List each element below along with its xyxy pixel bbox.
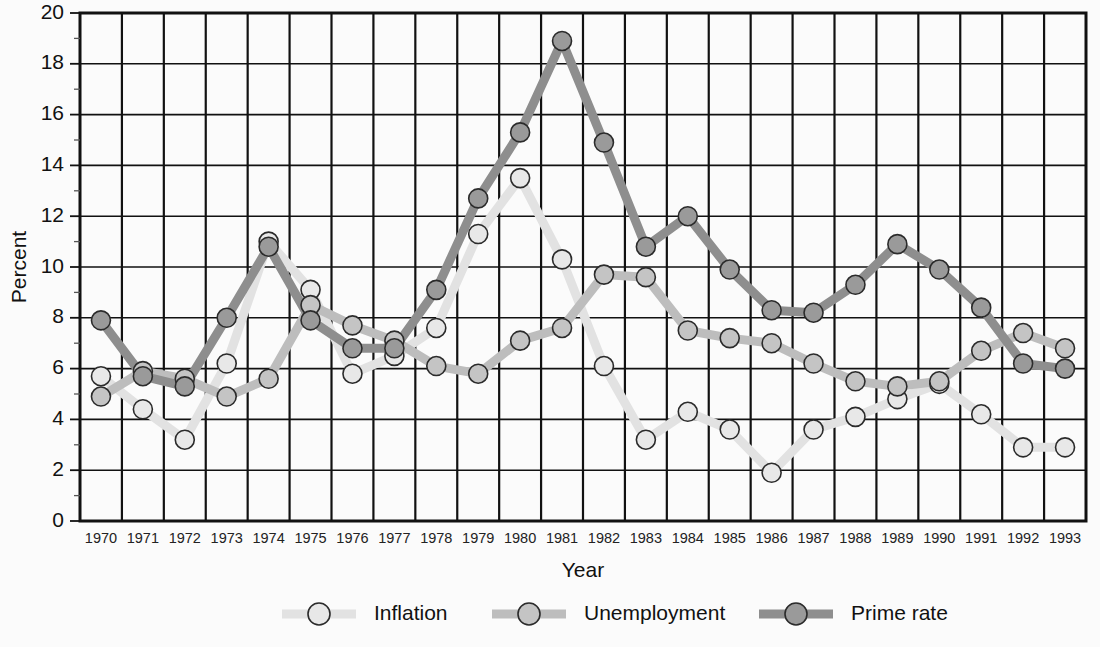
data-point-inflation — [91, 367, 110, 386]
data-point-inflation — [217, 354, 236, 373]
y-tick-label: 20 — [41, 0, 64, 23]
data-point-inflation — [511, 169, 530, 188]
legend-swatch-marker — [308, 603, 330, 625]
x-tick-label: 1977 — [378, 530, 410, 546]
line-chart: 02468101214161820 1970197119721973197419… — [0, 0, 1100, 647]
x-tick-label: 1978 — [420, 530, 452, 546]
data-point-inflation — [1014, 438, 1033, 457]
x-tick-label: 1989 — [881, 530, 913, 546]
x-tick-label: 1974 — [252, 530, 284, 546]
legend-label: Prime rate — [851, 601, 948, 624]
data-point-unemployment — [636, 268, 655, 287]
x-tick-label: 1981 — [546, 530, 578, 546]
data-point-prime-rate — [594, 133, 613, 152]
data-point-prime-rate — [1056, 359, 1075, 378]
y-tick-label: 6 — [52, 355, 64, 378]
data-point-inflation — [762, 463, 781, 482]
legend-swatch-marker — [518, 603, 540, 625]
x-tick-label: 1993 — [1049, 530, 1081, 546]
y-tick-label: 12 — [41, 203, 64, 226]
data-point-prime-rate — [385, 339, 404, 358]
data-point-unemployment — [1056, 339, 1075, 358]
data-point-unemployment — [217, 387, 236, 406]
y-tick-label: 18 — [41, 50, 64, 73]
x-tick-label: 1975 — [294, 530, 326, 546]
x-tick-label: 1990 — [923, 530, 955, 546]
data-point-prime-rate — [972, 298, 991, 317]
data-point-prime-rate — [133, 367, 152, 386]
data-point-unemployment — [804, 354, 823, 373]
data-point-inflation — [553, 250, 572, 269]
x-tick-label: 1988 — [839, 530, 871, 546]
data-point-inflation — [804, 420, 823, 439]
data-point-unemployment — [594, 265, 613, 284]
y-axis-title: Percent — [7, 231, 30, 304]
data-point-unemployment — [427, 357, 446, 376]
data-point-unemployment — [1014, 324, 1033, 343]
y-tick-label: 14 — [41, 152, 65, 175]
data-point-prime-rate — [888, 235, 907, 254]
data-point-prime-rate — [511, 123, 530, 142]
data-point-unemployment — [91, 387, 110, 406]
data-point-unemployment — [846, 372, 865, 391]
data-point-prime-rate — [469, 189, 488, 208]
y-tick-label: 8 — [52, 304, 64, 327]
data-point-unemployment — [553, 318, 572, 337]
data-point-inflation — [846, 407, 865, 426]
data-point-prime-rate — [427, 280, 446, 299]
x-tick-label: 1982 — [588, 530, 620, 546]
x-axis-tick-labels: 1970197119721973197419751976197719781979… — [85, 530, 1081, 546]
data-point-prime-rate — [636, 237, 655, 256]
x-tick-label: 1983 — [630, 530, 662, 546]
y-tick-label: 10 — [41, 254, 64, 277]
legend-label: Inflation — [374, 601, 448, 624]
axis-ticks — [70, 13, 80, 521]
x-tick-label: 1972 — [169, 530, 201, 546]
data-point-unemployment — [511, 331, 530, 350]
x-tick-label: 1970 — [85, 530, 117, 546]
x-tick-label: 1979 — [462, 530, 494, 546]
x-tick-label: 1991 — [965, 530, 997, 546]
data-point-prime-rate — [930, 260, 949, 279]
data-point-unemployment — [888, 377, 907, 396]
data-point-prime-rate — [259, 237, 278, 256]
data-point-unemployment — [972, 341, 991, 360]
data-point-inflation — [427, 318, 446, 337]
data-point-prime-rate — [91, 311, 110, 330]
data-point-unemployment — [469, 364, 488, 383]
x-tick-label: 1973 — [211, 530, 243, 546]
y-tick-label: 2 — [52, 457, 64, 480]
x-tick-label: 1987 — [797, 530, 829, 546]
data-point-prime-rate — [762, 301, 781, 320]
data-point-prime-rate — [175, 377, 194, 396]
data-point-inflation — [469, 224, 488, 243]
x-tick-label: 1971 — [127, 530, 159, 546]
y-tick-label: 0 — [52, 508, 64, 531]
x-tick-label: 1980 — [504, 530, 536, 546]
x-tick-label: 1976 — [336, 530, 368, 546]
data-point-prime-rate — [1014, 354, 1033, 373]
legend-label: Unemployment — [584, 601, 725, 624]
data-point-inflation — [343, 364, 362, 383]
x-tick-label: 1985 — [714, 530, 746, 546]
legend-swatch-marker — [785, 603, 807, 625]
data-point-prime-rate — [678, 207, 697, 226]
data-point-inflation — [1056, 438, 1075, 457]
x-tick-label: 1984 — [672, 530, 704, 546]
chart-figure: 02468101214161820 1970197119721973197419… — [0, 0, 1100, 647]
data-point-prime-rate — [301, 311, 320, 330]
y-tick-label: 16 — [41, 101, 64, 124]
data-point-prime-rate — [720, 260, 739, 279]
x-tick-label: 1992 — [1007, 530, 1039, 546]
data-point-unemployment — [678, 321, 697, 340]
data-point-inflation — [594, 357, 613, 376]
data-point-inflation — [175, 430, 194, 449]
data-point-inflation — [720, 420, 739, 439]
x-axis-title: Year — [562, 558, 604, 581]
data-point-inflation — [678, 402, 697, 421]
data-point-unemployment — [343, 316, 362, 335]
x-tick-label: 1986 — [755, 530, 787, 546]
data-point-unemployment — [930, 372, 949, 391]
data-point-unemployment — [762, 334, 781, 353]
data-point-prime-rate — [804, 303, 823, 322]
